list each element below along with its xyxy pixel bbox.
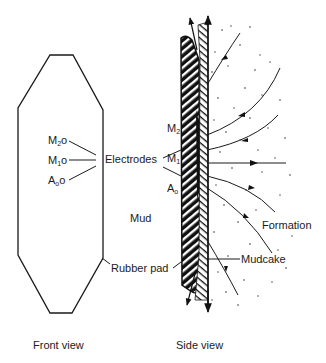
side-electrode-m2: M2 (167, 122, 180, 138)
leader-ao (69, 166, 96, 180)
side-electrode-m1: M1 (167, 152, 180, 168)
mudcake-label: Mudcake (241, 253, 286, 265)
leader-m2 (69, 141, 96, 155)
front-electrode-m1: M1o (48, 154, 67, 170)
electrodes-label: Electrodes (105, 153, 157, 165)
mud-label: Mud (130, 212, 151, 224)
side-view-caption: Side view (176, 339, 223, 351)
front-view-caption: Front view (33, 339, 84, 351)
side-electrode-ao: Ao (167, 182, 178, 198)
leader-rubber-pad (102, 258, 110, 264)
front-electrode-m2: M2o (48, 134, 67, 150)
side-leader-ao (163, 167, 181, 176)
leader-rubber-pad-side (173, 262, 181, 268)
formation-label: Formation (262, 219, 312, 231)
front-electrode-ao: Aoo (48, 174, 65, 190)
rubber-pad-label: Rubber pad (111, 262, 169, 274)
